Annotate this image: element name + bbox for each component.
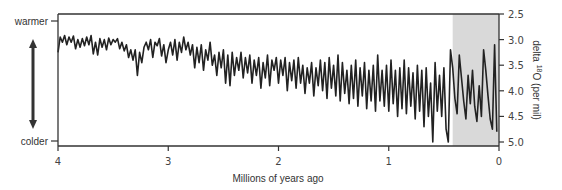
y-axis-title-suffix: O (per mil)	[531, 73, 542, 120]
y-axis-title-prefix: delta	[531, 40, 542, 64]
y-tick-label: 4.5	[508, 111, 524, 122]
x-tick-label: 0	[496, 156, 502, 167]
y-tick-label: 3.5	[508, 60, 524, 71]
y-axis-ticks: 2.53.03.54.04.55.0	[499, 9, 524, 148]
y-axis-title-superscript: 18	[536, 65, 543, 73]
colder-label: colder	[21, 136, 49, 147]
y-tick-label: 5.0	[508, 137, 524, 148]
y-axis-title: delta 18O (per mil)	[531, 40, 543, 120]
x-tick-label: 1	[386, 156, 392, 167]
x-axis-title: Millions of years ago	[232, 173, 324, 184]
chart: 43210 2.53.03.54.04.55.0 Millions of yea…	[0, 0, 562, 190]
x-axis-ticks: 43210	[55, 146, 502, 167]
x-tick-label: 3	[165, 156, 171, 167]
delta18o-line	[58, 36, 497, 143]
x-tick-label: 2	[275, 156, 281, 167]
x-tick-label: 4	[55, 156, 61, 167]
y-tick-label: 2.5	[508, 9, 524, 20]
warmer-label: warmer	[14, 16, 49, 27]
y-tick-label: 4.0	[508, 86, 524, 97]
svg-text:delta 18O (per mil): delta 18O (per mil)	[531, 40, 543, 120]
double-arrow-icon	[29, 39, 37, 129]
y-tick-label: 3.0	[508, 35, 524, 46]
